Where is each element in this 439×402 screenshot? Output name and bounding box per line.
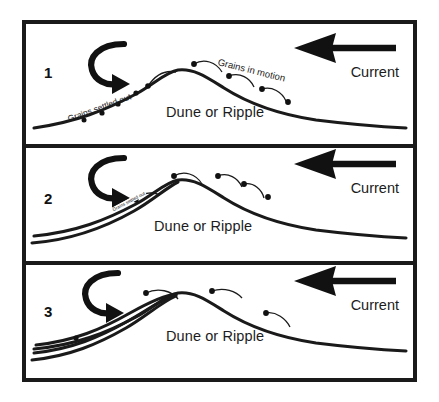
- bedform-label: Dune or Ripple: [154, 218, 252, 234]
- current-label: Current: [351, 64, 399, 80]
- panel-2: 2 Dune or Ripple Current Grains settled …: [26, 144, 413, 265]
- current-left-arrow-icon: [294, 33, 396, 63]
- bedform-label: Dune or Ripple: [166, 104, 264, 120]
- panel-number: 1: [44, 64, 52, 81]
- current-left-arrow-icon: [294, 149, 396, 179]
- grain-dot-icon: [73, 335, 78, 340]
- panel-3-graphics: [26, 265, 413, 378]
- panel-3: 3 Dune or Ripple Current: [26, 265, 413, 378]
- panel-number: 2: [44, 190, 52, 207]
- cross-bedding-diagram: 1 Dune or Ripple Current Grains settled …: [0, 0, 439, 402]
- panel-number: 3: [44, 303, 52, 320]
- current-left-arrow-icon: [294, 266, 396, 296]
- foreset-layer: [34, 295, 176, 353]
- current-label: Current: [351, 297, 399, 313]
- panel-2-graphics: [26, 148, 413, 261]
- diagram-frame: 1 Dune or Ripple Current Grains settled …: [22, 20, 417, 382]
- panel-1-graphics: [26, 24, 413, 144]
- bedform-label: Dune or Ripple: [166, 328, 264, 344]
- current-label: Current: [351, 180, 399, 196]
- panel-1: 1 Dune or Ripple Current Grains settled …: [26, 24, 413, 144]
- curved-eddy-arrow-icon: [85, 273, 124, 323]
- curved-eddy-arrow-icon: [91, 44, 130, 94]
